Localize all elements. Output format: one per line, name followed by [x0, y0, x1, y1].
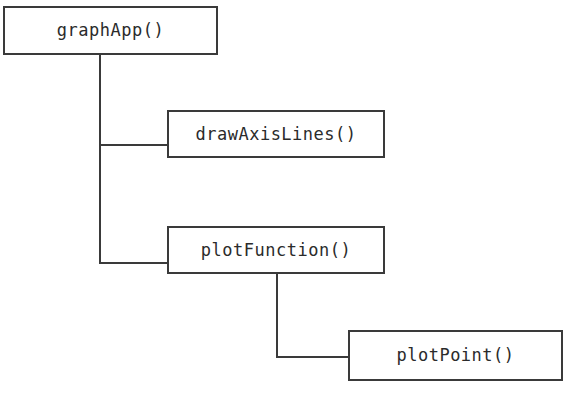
node-plotfunction-label: plotFunction() [201, 242, 351, 259]
edge-trunk-graphapp-vertical [99, 54, 101, 264]
node-plotfunction[interactable]: plotFunction() [167, 226, 385, 274]
node-graphapp-label: graphApp() [57, 22, 164, 39]
node-plotpoint-label: plotPoint() [396, 347, 514, 364]
edge-plotfunction-vertical [276, 273, 278, 358]
node-plotpoint[interactable]: plotPoint() [348, 330, 563, 381]
edge-plotfunction-to-plotpoint [276, 356, 350, 358]
edge-graphapp-to-plotfunction [99, 262, 169, 264]
diagram-canvas: graphApp() drawAxisLines() plotFunction(… [0, 0, 572, 397]
node-graphapp[interactable]: graphApp() [3, 6, 218, 55]
node-drawaxislines[interactable]: drawAxisLines() [167, 110, 385, 158]
node-drawaxislines-label: drawAxisLines() [195, 126, 356, 143]
edge-graphapp-to-drawaxislines [99, 144, 169, 146]
